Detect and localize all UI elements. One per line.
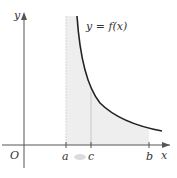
x-axis-label: x [161, 149, 168, 162]
x-axis-arrow-icon [162, 142, 170, 148]
tick-label-b: b [146, 150, 153, 163]
curve-label: y = f(x) [85, 20, 127, 33]
integral-diagram: y = f(x) y x O a c b [0, 0, 177, 178]
hint-arrow-icon [74, 154, 86, 160]
origin-label: O [10, 149, 19, 162]
y-axis-arrow-icon [21, 12, 27, 20]
tick-label-a: a [62, 150, 69, 163]
y-axis-label: y [13, 9, 21, 22]
tick-label-c: c [88, 150, 94, 163]
